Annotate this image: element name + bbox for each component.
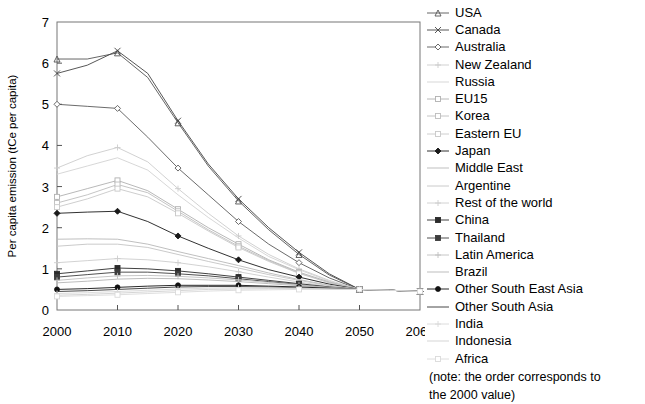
y-tick-label: 4 — [42, 138, 49, 153]
legend-key-russia — [425, 75, 451, 89]
legend-key-japan — [425, 144, 451, 158]
legend-item[interactable]: Other South Asia — [425, 298, 645, 315]
marker-diamond — [435, 44, 441, 50]
legend-label: Brazil — [455, 265, 488, 279]
legend-note: (note: the order corresponds tothe 2000 … — [425, 369, 645, 404]
legend-label: Indonesia — [455, 334, 511, 348]
marker-square — [55, 194, 60, 199]
legend-label: China — [455, 213, 489, 227]
legend-label: Other South East Asia — [455, 282, 583, 296]
marker-square — [436, 131, 441, 136]
x-tick-label: 2060 — [406, 324, 425, 339]
legend-key-eastern-eu — [425, 127, 451, 141]
legend-key-thailand — [425, 231, 451, 245]
legend-label: Japan — [455, 144, 490, 158]
marker-square — [55, 294, 60, 299]
marker-square-filled — [436, 235, 441, 240]
legend-label: Latin America — [455, 248, 534, 262]
legend-key-eu15 — [425, 92, 451, 106]
legend-label: EU15 — [455, 92, 488, 106]
legend-item[interactable]: Brazil — [425, 263, 645, 280]
legend-item[interactable]: Africa — [425, 350, 645, 367]
legend-label: Russia — [455, 75, 495, 89]
legend-item[interactable]: Argentine — [425, 177, 645, 194]
legend-label: New Zealand — [455, 58, 532, 72]
marker-square — [236, 245, 241, 250]
y-tick-label: 6 — [42, 56, 49, 71]
legend-label: Thailand — [455, 231, 505, 245]
legend-key-africa — [425, 352, 451, 366]
legend-item[interactable]: Australia — [425, 39, 645, 56]
chart-legend: USACanadaAustraliaNew ZealandRussiaEU15K… — [425, 4, 645, 379]
marker-square — [236, 288, 241, 293]
legend-label: Korea — [455, 109, 490, 123]
marker-square — [176, 211, 181, 216]
legend-item[interactable]: Eastern EU — [425, 125, 645, 142]
marker-square — [418, 289, 423, 294]
legend-label: Other South Asia — [455, 300, 553, 314]
legend-key-rest-of-the-world — [425, 196, 451, 210]
x-tick-label: 2030 — [224, 324, 253, 339]
legend-note-line: the 2000 value) — [429, 387, 645, 404]
legend-item[interactable]: Latin America — [425, 246, 645, 263]
legend-item[interactable]: Korea — [425, 108, 645, 125]
marker-square — [176, 290, 181, 295]
legend-label: Eastern EU — [455, 127, 521, 141]
marker-diamond-filled — [54, 210, 60, 216]
legend-label: Middle East — [455, 161, 523, 175]
legend-label: Australia — [455, 40, 506, 54]
y-tick-label: 1 — [42, 262, 49, 277]
legend-key-australia — [425, 40, 451, 54]
x-tick-label: 2020 — [164, 324, 193, 339]
y-tick-label: 0 — [42, 303, 49, 318]
marker-diamond-filled — [115, 208, 121, 214]
legend-label: USA — [455, 6, 482, 20]
marker-diamond-filled — [435, 148, 441, 154]
legend-key-canada — [425, 23, 451, 37]
legend-item[interactable]: New Zealand — [425, 56, 645, 73]
legend-entries: USACanadaAustraliaNew ZealandRussiaEU15K… — [425, 4, 645, 367]
marker-square — [115, 292, 120, 297]
x-tick-label: 2010 — [103, 324, 132, 339]
marker-square — [436, 356, 441, 361]
legend-item[interactable]: EU15 — [425, 90, 645, 107]
legend-key-korea — [425, 109, 451, 123]
line-chart-svg: 012345672000201020202030204020502060Per … — [0, 0, 425, 379]
legend-label: Rest of the world — [455, 196, 553, 210]
x-tick-label: 2040 — [285, 324, 314, 339]
legend-key-indonesia — [425, 334, 451, 348]
legend-item[interactable]: Middle East — [425, 160, 645, 177]
legend-item[interactable]: Rest of the world — [425, 194, 645, 211]
legend-item[interactable]: Canada — [425, 21, 645, 38]
legend-item[interactable]: China — [425, 212, 645, 229]
legend-item[interactable]: Other South East Asia — [425, 281, 645, 298]
plot-frame — [57, 22, 420, 310]
legend-item[interactable]: Thailand — [425, 229, 645, 246]
marker-diamond-filled — [175, 233, 181, 239]
legend-label: Argentine — [455, 179, 511, 193]
legend-key-latin-america — [425, 248, 451, 262]
x-tick-label: 2000 — [43, 324, 72, 339]
marker-square — [55, 205, 60, 210]
y-tick-label: 2 — [42, 221, 49, 236]
legend-key-brazil — [425, 265, 451, 279]
legend-label: Africa — [455, 352, 488, 366]
legend-key-middle-east — [425, 161, 451, 175]
legend-item[interactable]: India — [425, 315, 645, 332]
y-tick-label: 3 — [42, 180, 49, 195]
legend-item[interactable]: Indonesia — [425, 333, 645, 350]
plot-area: 012345672000201020202030204020502060Per … — [0, 0, 425, 379]
legend-key-india — [425, 317, 451, 331]
legend-item[interactable]: Russia — [425, 73, 645, 90]
legend-item[interactable]: Japan — [425, 142, 645, 159]
marker-square — [297, 287, 302, 292]
marker-diamond-filled — [236, 257, 242, 263]
legend-label: Canada — [455, 23, 501, 37]
legend-key-new-zealand — [425, 58, 451, 72]
series-africa — [55, 287, 423, 299]
legend-item[interactable]: USA — [425, 4, 645, 21]
x-tick-label: 2050 — [345, 324, 374, 339]
marker-square — [115, 186, 120, 191]
marker-circle-filled — [436, 287, 441, 292]
